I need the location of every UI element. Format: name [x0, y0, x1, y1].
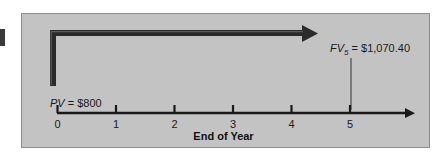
compounding-flow-arrow: [51, 25, 318, 86]
axis-tick-label-2: 2: [165, 119, 185, 130]
future-value-label: FV5 = $1,070.40: [330, 43, 410, 57]
axis-tick-label-0: 0: [48, 119, 68, 130]
axis-tick-label-5: 5: [340, 119, 360, 130]
present-value-equals: =: [68, 97, 74, 109]
future-value-symbol: FV: [330, 42, 344, 54]
axis-tick-label-4: 4: [282, 119, 302, 130]
present-value-amount: $800: [77, 97, 101, 109]
axis-tick-label-1: 1: [106, 119, 126, 130]
present-value-symbol: PV: [50, 97, 65, 109]
future-value-equals: =: [352, 42, 358, 54]
time-axis: [57, 108, 415, 118]
axis-tick-label-3: 3: [223, 119, 243, 130]
present-value-label: PV = $800: [50, 98, 102, 109]
future-value-amount: $1,070.40: [361, 42, 410, 54]
future-value-subscript: 5: [344, 48, 348, 57]
figure-panel: FV5 = $1,070.40 PV = $800 0 1 2 3 4 5: [21, 13, 430, 148]
figure-screenshot: FV5 = $1,070.40 PV = $800 0 1 2 3 4 5 En…: [0, 0, 447, 159]
page-edge-artifact: [0, 29, 5, 46]
axis-title: End of Year: [0, 131, 447, 142]
figure-panel-inner: FV5 = $1,070.40 PV = $800 0 1 2 3 4 5: [22, 14, 429, 147]
